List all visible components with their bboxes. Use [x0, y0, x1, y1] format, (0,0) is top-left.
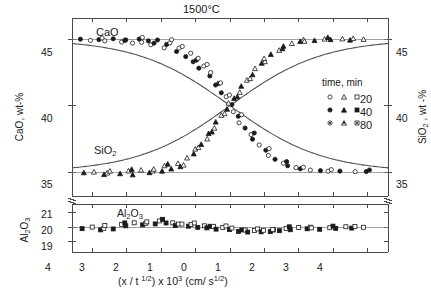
chart-canvas	[0, 0, 431, 300]
yaxis-title-left-cao: CaO, wt-%	[15, 82, 25, 152]
xtick-5: 1	[215, 262, 221, 273]
ytick-left-45: 45	[41, 47, 53, 58]
ytick-left-35: 35	[41, 179, 53, 190]
ytick-left-19: 19	[41, 241, 53, 252]
ytick-left-40: 40	[41, 113, 53, 124]
curve-label-sio2: SiO2	[94, 145, 117, 156]
figure-root: 1500°C CaO SiO2 Al2O3 45 40 35 21 20 19 …	[0, 0, 431, 300]
xtick-7: 3	[283, 262, 289, 273]
curve-label-al2o3: Al2O3	[117, 208, 143, 219]
xtick-4: 0	[181, 262, 187, 273]
ytick-left-21: 21	[41, 209, 53, 220]
xaxis-title: (x / t 1/2) x 103 (cm/ s1/2)	[118, 276, 228, 287]
legend-label-20: 20	[360, 94, 372, 105]
legend-title: time, min	[322, 78, 363, 88]
yaxis-title-right-sio2: SiO2 , wt -%	[418, 77, 428, 157]
xtick-6: 2	[249, 262, 255, 273]
xtick-0: 4	[45, 262, 51, 273]
ytick-right-45: 45	[396, 47, 408, 58]
xtick-2: 2	[113, 262, 119, 273]
yaxis-title-left-al2o3: Al2O3	[20, 205, 30, 255]
xtick-3: 1	[147, 262, 153, 273]
ytick-left-20: 20	[41, 225, 53, 236]
xtick-1: 3	[79, 262, 85, 273]
ytick-right-40: 40	[396, 113, 408, 124]
ytick-right-35: 35	[396, 179, 408, 190]
chart-title: 1500°C	[183, 4, 220, 15]
legend-label-40: 40	[360, 107, 372, 118]
xtick-8: 4	[317, 262, 323, 273]
curve-label-cao: CaO	[96, 27, 119, 38]
legend-label-80: 80	[360, 120, 372, 131]
